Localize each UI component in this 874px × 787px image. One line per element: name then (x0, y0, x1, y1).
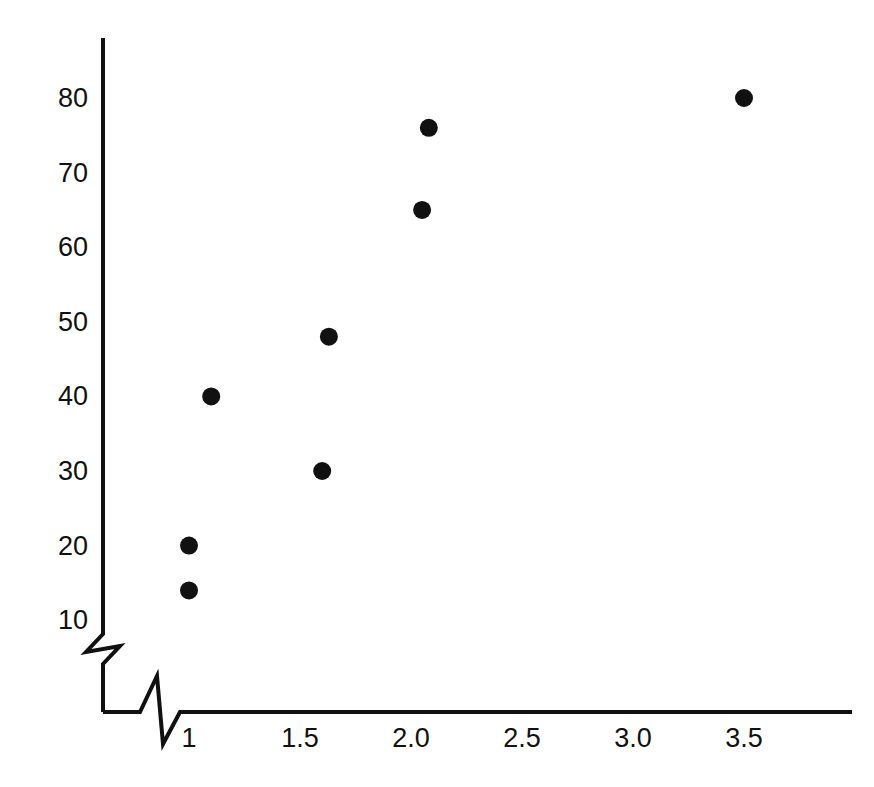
y-axis-line (86, 38, 120, 712)
plot-canvas (0, 0, 874, 787)
data-points-layer (180, 89, 753, 599)
y-tick-label: 10 (0, 607, 88, 634)
data-point (180, 537, 198, 555)
x-tick-label: 1.5 (281, 725, 319, 752)
x-tick-label: 3.5 (725, 725, 763, 752)
data-point (320, 328, 338, 346)
y-tick-label: 60 (0, 234, 88, 261)
data-point (180, 581, 198, 599)
y-tick-label: 30 (0, 458, 88, 485)
data-point (735, 89, 753, 107)
data-point (420, 119, 438, 137)
y-tick-label: 40 (0, 383, 88, 410)
y-tick-label: 80 (0, 85, 88, 112)
x-tick-label: 3.0 (614, 725, 652, 752)
y-tick-label: 70 (0, 159, 88, 186)
data-point (202, 387, 220, 405)
x-tick-label: 1 (181, 725, 196, 752)
data-point (413, 201, 431, 219)
scatter-plot-figure: 1020304050607080 11.52.02.53.03.5 (0, 0, 874, 787)
y-tick-label: 50 (0, 308, 88, 335)
y-tick-label: 20 (0, 532, 88, 559)
x-tick-label: 2.5 (503, 725, 541, 752)
x-tick-label: 2.0 (392, 725, 430, 752)
data-point (313, 462, 331, 480)
